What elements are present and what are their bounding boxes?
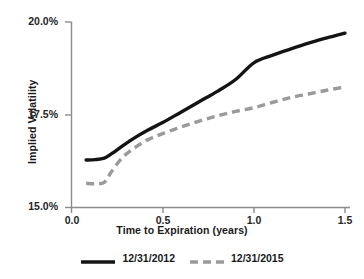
- legend-item-12-31-2015[interactable]: 12/31/2015: [189, 252, 284, 264]
- x-tick-label-1-5: 1.5: [325, 214, 364, 226]
- x-tick-label-1-0: 1.0: [234, 214, 274, 226]
- y-tick-label-17-5: 17.5%: [12, 108, 58, 120]
- legend-label-12-31-2012: 12/31/2012: [122, 252, 175, 264]
- y-tick-label-15: 15.0%: [12, 200, 58, 212]
- y-axis-ticks: [65, 22, 72, 208]
- axes-lines: [72, 22, 351, 208]
- legend-swatch-dashed-icon: [189, 253, 225, 263]
- series-line-12-31-2015: [86, 87, 345, 184]
- implied-volatility-chart: Implied Volatility Time to Expiration (y…: [0, 0, 364, 279]
- x-tick-label-0: 0.0: [52, 214, 92, 226]
- series-line-12-31-2012: [86, 33, 345, 160]
- y-tick-label-20: 20.0%: [12, 15, 58, 27]
- x-axis-ticks: [72, 208, 346, 214]
- legend-item-12-31-2012[interactable]: 12/31/2012: [80, 252, 175, 264]
- y-axis-title: Implied Volatility: [26, 80, 38, 164]
- legend-swatch-solid-icon: [80, 253, 116, 263]
- legend-label-12-31-2015: 12/31/2015: [231, 252, 284, 264]
- chart-legend: 12/31/2012 12/31/2015: [0, 252, 364, 264]
- x-tick-label-0-5: 0.5: [143, 214, 183, 226]
- plot-area: [0, 0, 364, 279]
